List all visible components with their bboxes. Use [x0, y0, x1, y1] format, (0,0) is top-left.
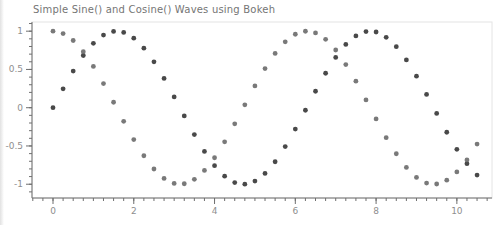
data-point-cosine [71, 38, 76, 43]
plot-outline [32, 22, 492, 198]
data-point-sine [313, 89, 318, 94]
data-point-cosine [242, 102, 247, 107]
data-point-sine [353, 34, 358, 39]
data-point-sine [242, 182, 247, 187]
data-point-cosine [434, 182, 439, 187]
data-point-sine [121, 30, 126, 35]
y-tick-label: 0.5 [9, 64, 23, 74]
data-point-sine [323, 71, 328, 76]
data-point-sine [293, 127, 298, 132]
data-point-cosine [202, 168, 207, 173]
data-point-sine [444, 130, 449, 135]
data-point-sine [394, 44, 399, 49]
data-point-sine [475, 173, 480, 178]
data-point-sine [212, 163, 217, 168]
x-tick-label: 4 [212, 206, 218, 216]
data-point-cosine [293, 32, 298, 37]
data-point-cosine [81, 49, 86, 54]
data-point-sine [111, 29, 116, 34]
y-tick-label: 1 [17, 26, 23, 36]
data-point-cosine [101, 81, 106, 86]
data-point-cosine [353, 79, 358, 84]
data-point-cosine [51, 29, 56, 34]
data-point-sine [232, 180, 237, 185]
x-tick-label: 2 [131, 206, 137, 216]
data-point-cosine [111, 100, 116, 105]
data-point-sine [182, 114, 187, 119]
data-point-cosine [141, 153, 146, 158]
data-point-cosine [172, 181, 177, 186]
data-point-cosine [475, 142, 480, 147]
data-point-sine [404, 57, 409, 62]
data-point-cosine [394, 151, 399, 156]
data-point-cosine [414, 175, 419, 180]
data-point-cosine [91, 64, 96, 69]
data-point-cosine [333, 48, 338, 53]
data-point-sine [101, 33, 106, 38]
data-point-sine [424, 92, 429, 97]
data-point-sine [141, 46, 146, 51]
data-point-sine [172, 95, 177, 100]
data-point-cosine [424, 181, 429, 186]
data-point-sine [283, 144, 288, 149]
data-point-sine [333, 55, 338, 60]
plot-canvas: 024681010.50-0.5-1 [0, 0, 500, 225]
bokeh-figure: Simple Sine() and Cosine() Waves using B… [0, 0, 500, 225]
data-point-cosine [273, 51, 278, 56]
data-point-cosine [454, 170, 459, 175]
data-point-cosine [182, 181, 187, 186]
data-point-cosine [253, 84, 258, 89]
data-point-sine [263, 171, 268, 176]
x-tick-label: 0 [50, 206, 56, 216]
data-point-sine [343, 42, 348, 47]
y-tick-label: 0 [17, 103, 23, 113]
data-point-cosine [162, 176, 167, 181]
data-point-sine [61, 86, 66, 91]
data-point-sine [51, 105, 56, 110]
x-tick-label: 8 [373, 206, 379, 216]
data-point-cosine [61, 31, 66, 36]
data-point-cosine [152, 167, 157, 172]
x-tick-label: 6 [292, 206, 298, 216]
data-point-sine [414, 74, 419, 79]
y-tick-label: -0.5 [5, 141, 23, 151]
data-point-sine [384, 35, 389, 40]
data-point-cosine [323, 37, 328, 42]
data-point-cosine [283, 39, 288, 44]
data-point-cosine [313, 31, 318, 36]
data-point-cosine [374, 116, 379, 121]
data-point-sine [131, 36, 136, 41]
data-point-cosine [222, 139, 227, 144]
y-tick-label: -1 [14, 179, 23, 189]
data-point-sine [152, 59, 157, 64]
data-point-cosine [343, 62, 348, 67]
data-point-sine [91, 41, 96, 46]
data-point-sine [253, 179, 258, 184]
data-point-cosine [212, 155, 217, 160]
data-point-sine [364, 29, 369, 34]
data-point-sine [162, 76, 167, 81]
data-point-cosine [404, 165, 409, 170]
data-point-sine [273, 159, 278, 164]
data-point-cosine [263, 66, 268, 71]
data-point-cosine [121, 119, 126, 124]
data-point-sine [454, 147, 459, 152]
data-point-sine [71, 69, 76, 74]
data-point-sine [434, 111, 439, 116]
data-point-sine [222, 174, 227, 179]
data-point-cosine [384, 135, 389, 140]
data-point-cosine [192, 177, 197, 182]
data-point-cosine [364, 97, 369, 102]
data-point-sine [374, 30, 379, 35]
data-point-cosine [465, 157, 470, 162]
data-point-sine [202, 149, 207, 154]
data-point-cosine [232, 121, 237, 126]
data-point-cosine [131, 137, 136, 142]
data-point-sine [192, 132, 197, 137]
data-point-cosine [303, 29, 308, 34]
data-point-cosine [444, 178, 449, 183]
data-point-sine [303, 108, 308, 113]
x-tick-label: 10 [451, 206, 463, 216]
